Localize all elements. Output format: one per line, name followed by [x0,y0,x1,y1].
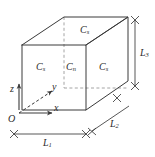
face-label-middle-subscript: n [73,65,76,72]
face-label-right-symbol: C [99,61,106,72]
face-label-right-subscript: s [106,65,109,72]
box-hidden-edges [64,17,128,88]
dimension-label-depth-subscript: 2 [116,122,119,129]
axis-label-origin: O [8,114,15,124]
tick-cross-l2-low [88,128,96,135]
dimension-label-height: L3 [140,48,149,59]
face-label-right: Cs [99,62,108,73]
face-label-left-symbol: C [36,61,43,72]
face-label-top-subscript: s [87,28,90,35]
coordinate-axes [19,84,52,113]
box-diagram-figure: Cs Cs Cn Cs z y x O L1 L2 L3 [0,0,155,157]
axis-label-y: y [52,82,56,92]
box-diagram-svg [0,0,155,157]
face-label-left: Cs [36,62,45,73]
face-label-left-subscript: s [43,65,46,72]
face-label-middle-symbol: C [66,61,73,72]
face-label-top: Cs [80,25,89,36]
dimension-label-bottom: L1 [43,138,52,149]
dimension-label-bottom-subscript: 1 [49,141,52,148]
tick-cross-l2-high [113,94,121,102]
face-label-top-symbol: C [80,24,87,35]
axis-label-x: x [54,103,58,113]
dimension-label-height-subscript: 3 [146,51,149,58]
axis-label-z: z [10,84,14,94]
face-label-middle: Cn [66,62,76,73]
dimension-lines [10,16,139,138]
dimension-label-depth: L2 [110,119,119,130]
